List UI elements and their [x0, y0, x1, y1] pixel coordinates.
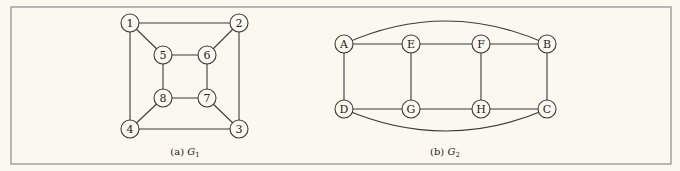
- node-2: 2: [230, 14, 248, 32]
- node-label: B: [543, 38, 551, 51]
- node-E: E: [402, 35, 420, 53]
- node-label: G: [407, 103, 416, 116]
- node-A: A: [335, 35, 353, 53]
- node-label: 6: [204, 49, 211, 62]
- node-label: 3: [236, 123, 243, 136]
- graph-figure: 12345678 (a) G1 AEFBDGHC (b) G2: [0, 0, 680, 171]
- node-label: A: [339, 38, 349, 51]
- node-label: 2: [236, 17, 243, 30]
- graph-g2: AEFBDGHC (b) G2: [335, 21, 556, 159]
- node-label: C: [543, 103, 551, 116]
- node-7: 7: [198, 89, 216, 107]
- node-D: D: [335, 100, 353, 118]
- node-label: 1: [127, 17, 134, 30]
- graph-g2-edges: [344, 21, 547, 131]
- figure-frame: [11, 7, 671, 164]
- node-label: 5: [160, 49, 167, 62]
- node-label: 8: [160, 92, 167, 105]
- node-H: H: [472, 100, 490, 118]
- graph-g1: 12345678 (a) G1: [121, 14, 248, 159]
- caption-g1: (a) G1: [170, 146, 199, 159]
- node-label: E: [407, 38, 415, 51]
- node-6: 6: [198, 46, 216, 64]
- caption-g2: (b) G2: [430, 146, 460, 159]
- node-3: 3: [230, 120, 248, 138]
- curved-edge-A-B: [344, 21, 547, 44]
- graph-g2-nodes: AEFBDGHC: [335, 35, 556, 118]
- node-G: G: [402, 100, 420, 118]
- node-label: 4: [127, 123, 134, 136]
- node-5: 5: [154, 46, 172, 64]
- node-F: F: [472, 35, 490, 53]
- curved-edge-D-C: [344, 109, 547, 131]
- node-label: H: [476, 103, 486, 116]
- graph-g1-edges: [130, 23, 239, 129]
- node-label: F: [477, 38, 485, 51]
- node-label: D: [340, 103, 349, 116]
- node-4: 4: [121, 120, 139, 138]
- node-B: B: [538, 35, 556, 53]
- node-1: 1: [121, 14, 139, 32]
- node-label: 7: [204, 92, 211, 105]
- node-8: 8: [154, 89, 172, 107]
- node-C: C: [538, 100, 556, 118]
